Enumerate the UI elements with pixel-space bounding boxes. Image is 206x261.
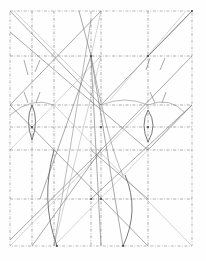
diagonal-line <box>32 150 101 246</box>
construction-arc <box>123 175 132 246</box>
geometric-construction-figure <box>0 0 206 261</box>
diagonal-line <box>101 56 192 150</box>
intersection-point <box>90 198 92 200</box>
tick-mark <box>24 92 28 103</box>
intersection-point <box>31 126 33 128</box>
intersection-point <box>100 126 102 128</box>
tick-mark <box>36 92 40 103</box>
diagonal-line <box>91 150 148 199</box>
tick-mark <box>162 92 166 103</box>
diagonal-line <box>91 105 192 199</box>
intersection-point <box>122 245 124 247</box>
diagonal-line <box>10 56 101 150</box>
construction-arc <box>29 105 33 140</box>
construction-arc <box>148 110 153 142</box>
intersection-point <box>56 245 58 247</box>
intersection-point <box>90 55 92 57</box>
tick-mark <box>35 60 40 72</box>
intersection-point <box>100 198 102 200</box>
diagonal-line <box>54 56 101 246</box>
diagonal-line <box>10 150 101 240</box>
construction-arc <box>101 100 148 105</box>
diagonal-line <box>10 32 148 150</box>
diagonal-line <box>79 11 91 56</box>
construction-arc <box>32 105 36 140</box>
intersection-point <box>191 10 193 12</box>
construction-grid <box>10 11 192 246</box>
intersection-point <box>147 126 149 128</box>
construction-arc <box>144 110 148 142</box>
construction-arc <box>148 102 185 113</box>
construction-drawing <box>0 0 206 261</box>
diagonal-line <box>91 11 101 56</box>
tick-mark <box>24 60 28 75</box>
intersection-point <box>147 55 149 57</box>
tick-mark <box>150 92 155 103</box>
tick-mark <box>160 58 165 70</box>
diagonal-line <box>101 11 192 105</box>
